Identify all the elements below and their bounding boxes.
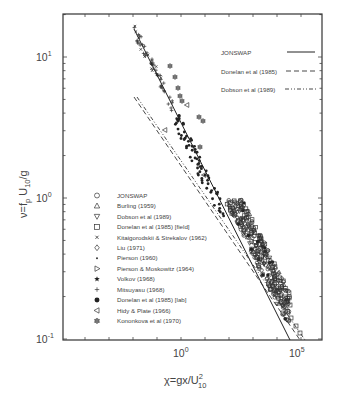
jonswap-fit-line: [134, 29, 290, 340]
x-tick-label-10e5: 105: [289, 346, 305, 359]
marker-legend-item: Hidy & Plate (1966): [94, 307, 171, 314]
line-legend-label-dobson: Dobson et al (1989): [221, 86, 275, 93]
marker-legend-label: Pierson & Moskowitz (1964): [117, 265, 194, 272]
marker-legend-item: Pierson & Moskowitz (1964): [95, 265, 194, 272]
marker-legend-item: Pierson (1960): [96, 254, 158, 261]
marker-legend-label: Dobson et al (1989): [117, 213, 171, 220]
marker-legend-item: Kononkova et al (1970): [94, 317, 181, 324]
triangle-left-open-marker-icon: [94, 308, 99, 313]
x-small-marker-icon: [95, 236, 98, 239]
marker-legend-item: Volkov (1968): [94, 275, 155, 282]
plus-marker-icon: [95, 287, 100, 292]
x-tick-label-10e0: 100: [173, 346, 189, 359]
diamond-open-marker-icon: [95, 245, 100, 251]
marker-legend-item: Donelan et al (1985) [field]: [95, 223, 190, 230]
marker-legend-label: Volkov (1968): [117, 275, 155, 282]
line-legend-label-jonswap: JONSWAP: [221, 49, 251, 56]
y-tick-label-10e1: 101: [36, 50, 52, 63]
hexagon-star-marker-icon: [94, 318, 99, 324]
marker-legend-label: Mitsuyasu (1968): [117, 286, 164, 293]
circle-filled-marker-icon: [95, 298, 100, 303]
marker-legend-item: Kitaigorodskii & Strekalov (1962): [95, 234, 206, 241]
marker-legend: JONSWAPBurling (1959)Dobson et al (1989)…: [94, 192, 207, 324]
marker-legend-item: Mitsuyasu (1968): [95, 286, 165, 293]
marker-legend-item: Liu (1971): [95, 244, 145, 251]
marker-legend-label: Pierson (1960): [117, 254, 158, 261]
triangle-up-open-marker-icon: [94, 203, 99, 208]
line-legend: JONSWAP Donelan et al (1985) Dobson et a…: [221, 49, 318, 93]
marker-legend-label: Liu (1971): [117, 244, 145, 251]
marker-legend-label: Hidy & Plate (1966): [117, 307, 171, 314]
triangle-down-open-marker-icon: [94, 214, 99, 219]
square-open-marker-icon: [95, 224, 100, 229]
marker-legend-item: JONSWAP: [95, 192, 148, 199]
marker-legend-item: Burling (1959): [94, 202, 156, 209]
line-legend-label-donelan: Donelan et al (1985): [221, 68, 277, 75]
star-filled-marker-icon: [94, 276, 100, 281]
circle-open-marker-icon: [95, 193, 100, 198]
marker-legend-label: Kitaigorodskii & Strekalov (1962): [117, 234, 207, 241]
marker-legend-item: Donelan et al (1985) [lab]: [95, 296, 187, 303]
marker-legend-label: JONSWAP: [117, 192, 147, 199]
marker-legend-label: Kononkova et al (1970): [117, 317, 181, 324]
marker-legend-item: Dobson et al (1989): [94, 213, 171, 220]
marker-legend-label: Donelan et al (1985) [lab]: [117, 296, 187, 303]
y-axis-label: ν=fp U10/g: [17, 170, 32, 218]
triangle-right-open-marker-icon: [95, 266, 100, 271]
marker-legend-label: Donelan et al (1985) [field]: [117, 223, 190, 230]
y-tick-label-10e0: 100: [36, 191, 52, 204]
chart: 101 100 10-1 100 105 χ=gx/U210 ν=fp U10/…: [0, 0, 338, 403]
x-axis-label: χ=gx/U210: [164, 372, 206, 390]
marker-legend-label: Burling (1959): [117, 202, 156, 209]
y-tick-label-10e-1: 10-1: [36, 332, 54, 345]
dot-marker-icon: [96, 257, 98, 259]
